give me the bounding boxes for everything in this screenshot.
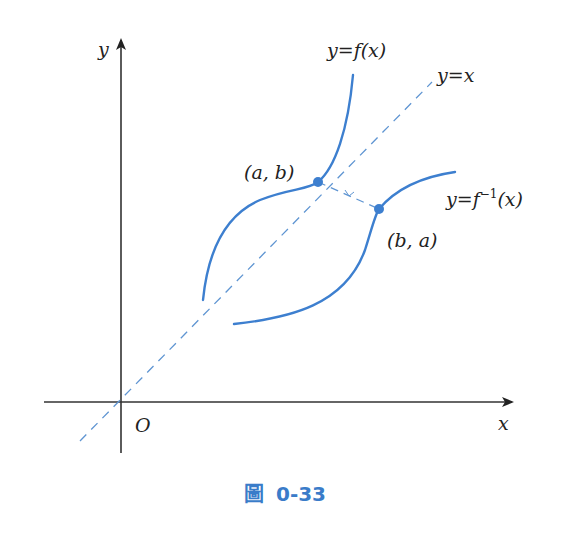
f-inverse-sup: −1 — [480, 187, 498, 201]
f-label: y=f(x) — [326, 39, 386, 61]
x-axis-label: x — [498, 412, 509, 434]
point-a-b-label: (a, b) — [244, 161, 294, 183]
identity-line — [80, 82, 432, 441]
caption-number: 0-33 — [276, 482, 326, 506]
caption-prefix: 圖 — [244, 482, 264, 506]
f-inverse-tail: (x) — [497, 188, 523, 210]
identity-label: y=x — [436, 64, 475, 86]
curve-f — [203, 75, 353, 300]
f-inverse-main: y=f — [445, 188, 483, 210]
y-axis-label: y — [97, 38, 109, 60]
origin-label: O — [135, 414, 151, 436]
point-b-a-label: (b, a) — [387, 229, 437, 251]
point-b-a — [374, 204, 384, 214]
figure-caption: 圖0-33 — [0, 478, 570, 507]
point-a-b — [313, 177, 323, 187]
inverse-function-diagram: y x O y=f(x) y=x y=f−1(x) (a, b) (b, a) — [0, 0, 570, 541]
f-inverse-label: y=f−1(x) — [445, 187, 523, 210]
